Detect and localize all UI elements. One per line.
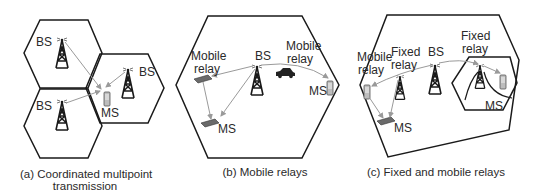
mobile-station-laptop-icon (377, 117, 395, 125)
panel-c (360, 15, 519, 157)
label-mobile-relay-left-2: relay (194, 63, 220, 76)
label-mobile-relay-2: relay (358, 64, 384, 77)
base-station-tower-icon (251, 65, 263, 95)
label-ms-right: MS (309, 85, 327, 98)
label-bs: BS (428, 46, 444, 59)
base-station-tower-icon (56, 100, 68, 130)
diagram-canvas (0, 0, 534, 191)
mobile-station-phone-icon (327, 81, 333, 95)
label-fixed-relay-left-2: relay (391, 59, 417, 72)
label-bs-bottom: BS (36, 100, 52, 113)
mobile-station-phone-icon (500, 75, 506, 89)
fixed-relay-tower-icon (475, 64, 485, 88)
label-bs-right: BS (139, 66, 155, 79)
label-ms: MS (101, 107, 119, 120)
label-ms-bottom: MS (394, 122, 412, 135)
base-station-tower-icon (56, 38, 68, 68)
caption-b: (b) Mobile relays (210, 166, 320, 179)
label-ms-bottom: MS (218, 123, 236, 136)
base-station-tower-icon (429, 64, 441, 94)
mobile-relay-phone-icon (364, 85, 370, 99)
mobile-relay-laptop-icon (194, 75, 212, 83)
caption-c: (c) Fixed and mobile relays (366, 166, 506, 179)
mobile-station-laptop-icon (201, 119, 219, 127)
mobile-station-phone-icon (104, 92, 110, 106)
caption-a-line2: transmission (20, 180, 150, 191)
label-ms-right: MS (485, 100, 503, 113)
label-mobile-relay-right-2: relay (287, 53, 313, 66)
label-fixed-relay-right-2: relay (462, 43, 488, 56)
mobile-relay-car-icon (276, 68, 295, 78)
label-bs-top: BS (36, 36, 52, 49)
label-bs: BS (255, 50, 271, 63)
